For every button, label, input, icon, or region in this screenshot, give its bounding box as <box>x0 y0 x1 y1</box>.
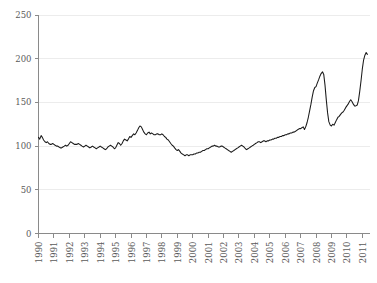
x-tick-labels-group: 1990199119921993199419951996199719981999… <box>34 242 368 264</box>
y-axis-tick-label: 0 <box>26 229 31 239</box>
y-tick-marks-group <box>35 15 39 234</box>
x-axis-tick-label: 1994 <box>96 242 106 264</box>
x-axis-tick-label: 2009 <box>327 242 337 264</box>
y-axis-tick-label: 250 <box>15 10 31 20</box>
x-axis-tick-label: 1997 <box>142 242 152 264</box>
x-axis-tick-label: 2000 <box>188 242 198 264</box>
x-axis-tick-label: 1998 <box>157 242 167 264</box>
x-tick-marks-group <box>39 234 363 238</box>
y-axis-tick-label: 100 <box>15 141 31 151</box>
x-axis-tick-label: 2008 <box>312 242 322 264</box>
chart-container: 050100150200250 199019911992199319941995… <box>0 0 377 283</box>
x-axis-tick-label: 1990 <box>34 242 44 264</box>
x-axis-tick-label: 2010 <box>342 242 352 264</box>
x-axis-tick-label: 1995 <box>111 242 121 264</box>
x-axis-tick-label: 2006 <box>281 242 291 264</box>
x-axis-tick-label: 1992 <box>65 242 75 264</box>
x-axis-tick-label: 2003 <box>234 242 244 264</box>
series-group <box>39 53 368 156</box>
x-axis-tick-label: 2011 <box>358 242 368 264</box>
x-axis-tick-label: 2005 <box>265 242 275 264</box>
y-axis-tick-label: 150 <box>15 97 31 107</box>
gridlines-group <box>39 15 371 190</box>
y-tick-labels-group: 050100150200250 <box>15 10 31 239</box>
x-axis-tick-label: 2001 <box>204 242 214 264</box>
x-axis-tick-label: 1999 <box>173 242 183 264</box>
y-axis-tick-label: 50 <box>21 185 32 195</box>
series-line-index <box>39 53 368 156</box>
x-axis-tick-label: 2007 <box>296 242 306 264</box>
x-axis-tick-label: 1996 <box>127 242 137 264</box>
y-axis-tick-label: 200 <box>15 54 31 64</box>
x-axis-tick-label: 1993 <box>80 242 90 264</box>
x-axis-tick-label: 2002 <box>219 242 229 264</box>
axes-group <box>39 15 371 234</box>
x-axis-tick-label: 1991 <box>49 242 59 264</box>
x-axis-tick-label: 2004 <box>250 242 260 264</box>
line-chart: 050100150200250 199019911992199319941995… <box>0 0 377 283</box>
